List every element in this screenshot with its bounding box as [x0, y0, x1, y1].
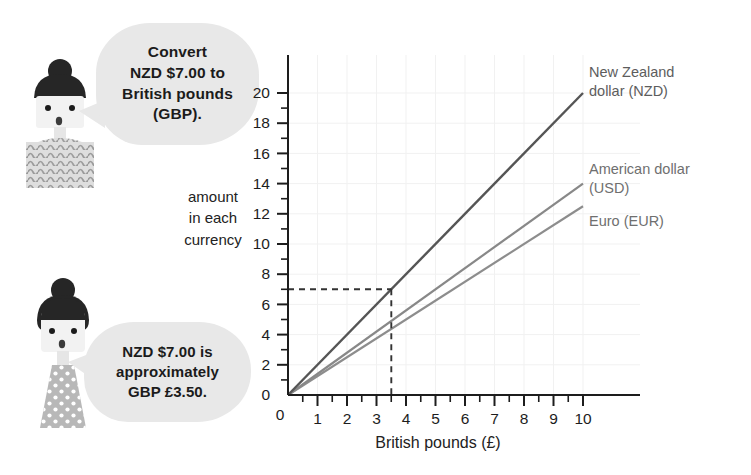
x-axis-label: British pounds (£)	[288, 434, 588, 452]
series-label-eur: Euro (EUR)	[589, 212, 664, 231]
x-tick-label: 1	[313, 410, 322, 427]
y-tick-label: 18	[253, 114, 270, 131]
x-tick-label: 2	[343, 410, 352, 427]
x-tick-label: 4	[402, 410, 411, 427]
y-tick-label: 8	[261, 265, 270, 282]
x-tick-label: 6	[461, 410, 470, 427]
y-tick-label: 6	[261, 296, 270, 313]
x-tick-labels: 0 1 2 3 4 5 6 7 8 9 10	[276, 406, 592, 427]
grid-lines	[288, 55, 640, 395]
y-tick-label: 12	[253, 205, 270, 222]
x-tick-label: 5	[431, 410, 440, 427]
y-tick-labels: 0 2 4 6 8 10 12 14 16 18 20	[253, 84, 271, 403]
x-tick-label: 8	[520, 410, 529, 427]
series-label-nzd: New Zealand dollar (NZD)	[589, 63, 674, 100]
y-tick-label: 0	[261, 386, 270, 403]
x-tick-label: 9	[549, 410, 558, 427]
y-tick-label: 14	[253, 175, 271, 192]
x-tick-label: 7	[490, 410, 499, 427]
y-tick-label: 2	[261, 356, 270, 373]
x-tick-label: 0	[276, 406, 285, 423]
series-label-usd: American dollar (USD)	[589, 160, 690, 197]
y-tick-label: 4	[261, 326, 270, 343]
y-tick-label: 10	[253, 235, 271, 252]
x-tick-label: 3	[372, 410, 381, 427]
y-tick-label: 20	[253, 84, 271, 101]
y-tick-label: 16	[253, 145, 270, 162]
x-tick-label: 10	[574, 410, 592, 427]
worksheet-canvas: Convert NZD $7.00 to British pounds (GBP…	[0, 0, 751, 475]
axes	[288, 55, 640, 395]
